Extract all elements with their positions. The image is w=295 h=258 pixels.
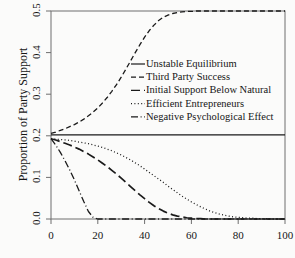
legend-label: Negative Psychological Effect <box>146 111 274 122</box>
legend-label: Efficient Entrepreneurs <box>146 98 244 109</box>
series-line <box>51 139 285 219</box>
y-tick-label: 0.2 <box>30 120 42 150</box>
y-axis-title: Proportion of Party Support <box>16 40 31 190</box>
y-tick-label: 0.4 <box>30 37 42 67</box>
y-tick-label: 0.5 <box>30 0 42 25</box>
plot-area <box>0 0 295 258</box>
x-tick-label: 100 <box>269 229 295 241</box>
chart-figure: Proportion of Party Support 020406080100… <box>0 0 295 258</box>
y-tick-label: 0.1 <box>30 161 42 191</box>
x-tick-label: 20 <box>82 229 114 241</box>
legend-label: Third Party Success <box>146 71 230 82</box>
y-tick-label: 0.3 <box>30 78 42 108</box>
series-line <box>51 139 285 219</box>
legend-label: Unstable Equilibrium <box>146 58 237 69</box>
legend-label: Initial Support Below Natural <box>146 84 271 95</box>
x-tick-label: 60 <box>175 229 207 241</box>
x-tick-label: 80 <box>222 229 254 241</box>
series-line <box>51 139 285 219</box>
x-tick-label: 40 <box>129 229 161 241</box>
y-tick-label: 0.0 <box>30 203 42 233</box>
